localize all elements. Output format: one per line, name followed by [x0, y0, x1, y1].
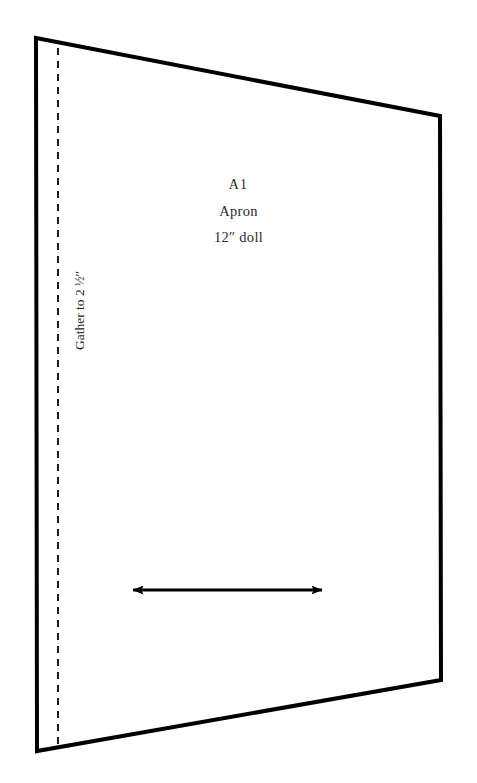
pattern-piece-outline: [36, 38, 441, 751]
pattern-drawing: [0, 0, 477, 783]
pattern-sheet: A1 Apron 12″ doll Gather to 2 ½″: [0, 0, 477, 783]
